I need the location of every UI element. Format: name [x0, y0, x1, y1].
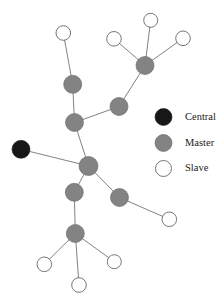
graph-node-slave[interactable]: [107, 255, 121, 269]
nodes-layer: [12, 13, 190, 292]
legend-marker-slave-icon: [156, 161, 172, 177]
graph-node-slave[interactable]: [144, 13, 158, 27]
legend-item-slave: Slave: [156, 161, 209, 177]
graph-node-master[interactable]: [64, 75, 82, 93]
legend-item-central: Central: [155, 109, 216, 126]
graph-node-slave[interactable]: [37, 257, 52, 272]
legend-item-master: Master: [155, 135, 215, 152]
network-topology-figure: CentralMasterSlave: [0, 0, 224, 302]
graph-node-slave[interactable]: [176, 31, 191, 46]
graph-node-slave[interactable]: [107, 32, 122, 47]
graph-node-slave[interactable]: [56, 26, 71, 41]
graph-node-slave[interactable]: [162, 212, 177, 227]
legend-label-master: Master: [185, 137, 215, 148]
graph-canvas: CentralMasterSlave: [0, 0, 224, 302]
legend: CentralMasterSlave: [155, 109, 216, 177]
graph-node-master[interactable]: [79, 157, 98, 176]
graph-edge: [21, 149, 89, 166]
legend-marker-master-icon: [155, 135, 172, 152]
graph-node-central[interactable]: [12, 140, 30, 158]
edges-layer: [21, 20, 183, 285]
graph-node-master[interactable]: [110, 98, 128, 116]
graph-node-master[interactable]: [66, 114, 84, 132]
graph-node-master[interactable]: [65, 183, 83, 201]
graph-node-slave[interactable]: [72, 278, 87, 293]
graph-node-master[interactable]: [111, 189, 129, 207]
graph-node-master[interactable]: [136, 57, 154, 75]
legend-marker-central-icon: [155, 109, 172, 126]
legend-label-central: Central: [185, 111, 216, 122]
legend-label-slave: Slave: [185, 162, 209, 173]
graph-node-master[interactable]: [66, 225, 84, 243]
